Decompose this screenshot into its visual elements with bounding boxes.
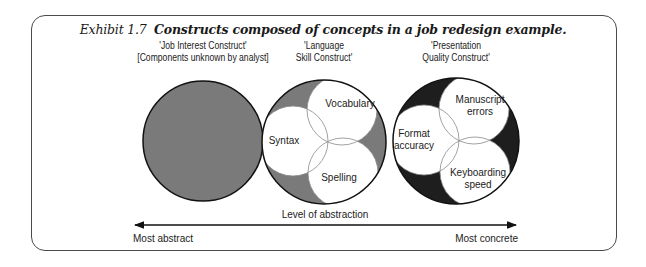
axis-label: Level of abstraction: [282, 209, 369, 220]
abstraction-axis: Level of abstraction Most abstract Most …: [133, 209, 518, 244]
construct-circle: [143, 81, 263, 201]
component-label-syntax: Syntax: [269, 135, 300, 146]
component-label-manuscript-line2: errors: [467, 106, 493, 117]
construct-job-interest: [143, 81, 263, 201]
component-label-vocabulary: Vocabulary: [325, 98, 374, 109]
axis-left-end: Most abstract: [133, 233, 193, 244]
component-label-manuscript-line1: Manuscript: [456, 94, 505, 105]
diagram-svg: Vocabulary Syntax Spelling Manuscript er…: [0, 0, 646, 267]
construct-presentation-quality: Manuscript errors Format accuracy Keyboa…: [389, 74, 519, 207]
component-label-format-line1: Format: [398, 128, 430, 139]
axis-right-end: Most concrete: [455, 233, 518, 244]
component-label-keyboarding-line1: Keyboarding: [450, 167, 506, 178]
exhibit-diagram: Exhibit 1.7 Constructs composed of conce…: [0, 0, 646, 267]
component-label-keyboarding-line2: speed: [464, 179, 491, 190]
component-label-format-line2: accuracy: [394, 140, 434, 151]
construct-language-skill: Vocabulary Syntax Spelling: [258, 75, 386, 208]
component-label-spelling: Spelling: [321, 172, 357, 183]
